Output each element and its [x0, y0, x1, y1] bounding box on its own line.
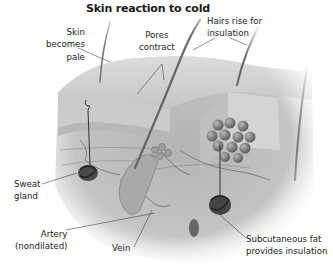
label-subcutaneous-fat: Subcutaneous fat provides insulation	[246, 233, 327, 258]
diagram-title: Skin reaction to cold	[86, 2, 210, 15]
label-hairs-rise: Hairs rise for insulation	[207, 15, 262, 40]
label-vein: Vein	[112, 242, 130, 254]
skin-cold-diagram: Skin reaction to cold Skin becomes pale …	[0, 0, 333, 273]
label-artery: Artery (nondilated)	[15, 228, 67, 253]
label-sweat-gland: Sweat gland	[14, 178, 40, 203]
label-skin-pale: Skin becomes pale	[46, 26, 85, 63]
label-pores-contract: Pores contract	[139, 29, 175, 54]
